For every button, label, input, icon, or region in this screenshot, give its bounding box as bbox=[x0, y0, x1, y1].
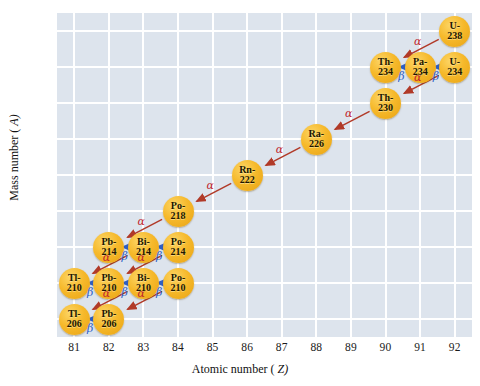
nuclide-mass-number: 234 bbox=[447, 67, 462, 77]
x-axis-tick: 92 bbox=[435, 341, 475, 353]
decay-label-beta: β bbox=[156, 250, 162, 263]
gridline-horizontal bbox=[57, 174, 472, 176]
nuclide-mass-number: 210 bbox=[171, 283, 186, 293]
nuclide-mass-number: 226 bbox=[309, 139, 324, 149]
decay-label-beta: β bbox=[121, 250, 127, 263]
gridline-horizontal bbox=[57, 102, 472, 104]
decay-label-alpha: α bbox=[103, 251, 110, 264]
gridline-horizontal bbox=[57, 210, 472, 212]
decay-label-alpha: α bbox=[414, 71, 421, 84]
nuclide-node[interactable]: Tl-210 bbox=[59, 268, 90, 299]
nuclide-mass-number: 230 bbox=[378, 103, 393, 113]
y-axis-title-text: Mass number ( bbox=[7, 129, 21, 201]
nuclide-mass-number: 234 bbox=[378, 67, 393, 77]
nuclide-mass-number: 206 bbox=[67, 319, 82, 329]
nuclide-mass-number: 214 bbox=[171, 247, 186, 257]
y-axis-title: Mass number ( A) bbox=[7, 88, 22, 228]
decay-label-beta: β bbox=[87, 322, 93, 335]
nuclide-node[interactable]: U-234 bbox=[439, 52, 470, 83]
decay-label-alpha: α bbox=[137, 251, 144, 264]
nuclide-node[interactable]: U-238 bbox=[439, 16, 470, 47]
nuclide-node[interactable]: Ra-226 bbox=[301, 124, 332, 155]
decay-label-alpha: α bbox=[137, 287, 144, 300]
x-axis-title-symbol: Z) bbox=[277, 362, 288, 376]
decay-label-beta: β bbox=[87, 286, 93, 299]
x-axis-title: Atomic number ( Z) bbox=[0, 362, 480, 377]
nuclide-node[interactable]: Po-218 bbox=[163, 196, 194, 227]
nuclide-mass-number: 222 bbox=[240, 175, 255, 185]
nuclide-node[interactable]: Rn-222 bbox=[232, 160, 263, 191]
decay-label-alpha: α bbox=[345, 107, 352, 120]
decay-label-beta: β bbox=[398, 70, 404, 83]
nuclide-node[interactable]: Po-210 bbox=[163, 268, 194, 299]
nuclide-node[interactable]: Po-214 bbox=[163, 232, 194, 263]
nuclide-node[interactable]: Tl-206 bbox=[59, 304, 90, 335]
decay-label-alpha: α bbox=[103, 287, 110, 300]
decay-label-alpha: α bbox=[137, 215, 144, 228]
decay-label-beta: β bbox=[433, 70, 439, 83]
nuclide-node[interactable]: Th-230 bbox=[370, 88, 401, 119]
gridline-horizontal bbox=[57, 138, 472, 140]
nuclide-node[interactable]: Pb-206 bbox=[93, 304, 124, 335]
decay-label-beta: β bbox=[156, 286, 162, 299]
decay-label-alpha: α bbox=[414, 35, 421, 48]
nuclide-mass-number: 210 bbox=[67, 283, 82, 293]
decay-label-beta: β bbox=[121, 286, 127, 299]
nuclide-mass-number: 206 bbox=[101, 319, 116, 329]
decay-label-alpha: α bbox=[276, 143, 283, 156]
decay-label-alpha: α bbox=[207, 179, 214, 192]
x-axis-title-text: Atomic number ( bbox=[192, 362, 275, 376]
decay-chain-figure: U-238Th-234Pa-234U-234Th-230Ra-226Rn-222… bbox=[0, 0, 480, 386]
nuclide-mass-number: 218 bbox=[171, 211, 186, 221]
nuclide-mass-number: 238 bbox=[447, 31, 462, 41]
nuclide-node[interactable]: Th-234 bbox=[370, 52, 401, 83]
y-axis-title-symbol: A) bbox=[7, 114, 21, 125]
gridline-horizontal bbox=[57, 30, 472, 32]
